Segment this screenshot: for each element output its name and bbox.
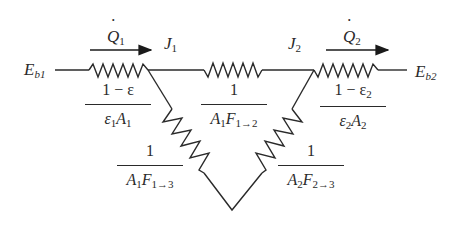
- resistor-space12: [204, 63, 262, 77]
- space12-numerator: 1: [230, 82, 238, 104]
- wire-j2-diag: [292, 70, 314, 109]
- space12-denominator: A1F1→2: [210, 105, 257, 129]
- surface2-numerator: 1 − ε2: [334, 82, 371, 106]
- eb1-subscript: b1: [34, 68, 45, 80]
- space13-denominator: A1F1→3: [126, 166, 173, 190]
- node-eb2-label: Eb2: [415, 63, 436, 82]
- space13-numerator: 1: [146, 143, 154, 165]
- q2-subscript: 2: [355, 35, 361, 47]
- q1-symbol: Q: [107, 28, 119, 45]
- resistance-space23: 1 A2F2→3: [278, 143, 344, 190]
- resistance-surface1: 1 − ε ε1A1: [85, 82, 151, 129]
- resistance-space12: 1 A1F1→2: [201, 82, 267, 129]
- eb1-symbol: E: [24, 60, 34, 79]
- j2-subscript: 2: [296, 42, 302, 54]
- heat-flow-q2-label: Q2: [343, 28, 361, 47]
- heat-flow-q1-label: Q1: [107, 28, 125, 47]
- j1-symbol: J: [164, 34, 172, 53]
- q1-subscript: 1: [119, 35, 125, 47]
- node-j2-label: J2: [288, 35, 301, 54]
- wire-bottom-vertex: [204, 173, 262, 210]
- resistor-surface1: [89, 64, 148, 77]
- q2-symbol: Q: [343, 28, 355, 45]
- j1-subscript: 1: [172, 42, 178, 54]
- eb2-subscript: b2: [425, 70, 436, 82]
- surface2-denominator: ε2A2: [339, 107, 366, 131]
- j2-symbol: J: [288, 34, 296, 53]
- space23-numerator: 1: [307, 143, 315, 165]
- eb2-symbol: E: [415, 62, 425, 81]
- node-j1-label: J1: [164, 35, 177, 54]
- wire-j1-diag: [148, 70, 172, 109]
- surface1-numerator: 1 − ε: [102, 82, 134, 104]
- resistor-surface2: [314, 64, 378, 77]
- resistance-surface2: 1 − ε2 ε2A2: [320, 82, 386, 131]
- resistance-space13: 1 A1F1→3: [117, 143, 183, 190]
- surface1-denominator: ε1A1: [104, 105, 131, 129]
- space23-denominator: A2F2→3: [287, 166, 334, 190]
- node-eb1-label: Eb1: [24, 61, 45, 80]
